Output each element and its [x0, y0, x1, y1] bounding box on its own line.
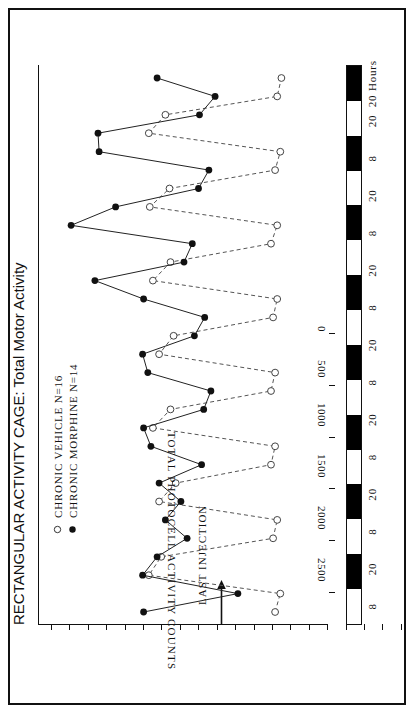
data-point: [274, 516, 281, 523]
time-tick: [364, 624, 365, 630]
hour-tick-label: 20: [366, 562, 378, 575]
rotated-figure-stage: RECTANGULAR ACTIVITY CAGE: Total Motor A…: [16, 27, 398, 687]
data-point: [277, 148, 284, 155]
data-point: [274, 295, 281, 302]
hours-axis-labels: 82082082082082082082020 Hours: [366, 65, 384, 625]
data-point: [184, 534, 191, 541]
value-tick: [329, 333, 335, 334]
data-point: [170, 332, 177, 339]
hour-tick-label: 8: [366, 155, 378, 161]
data-point: [154, 74, 161, 81]
hour-tick-label: 20: [366, 413, 378, 426]
hour-tick-label: 20: [366, 114, 378, 127]
data-point: [268, 387, 275, 394]
chart-title: RECTANGULAR ACTIVITY CAGE: Total Motor A…: [10, 65, 27, 625]
data-point: [156, 498, 163, 505]
data-point: [139, 350, 146, 357]
data-point: [268, 461, 275, 468]
value-tick-label: 0: [316, 326, 328, 332]
data-point: [274, 93, 281, 100]
data-point: [150, 277, 157, 284]
dark-phase-band: [347, 345, 361, 380]
hour-tick-label: 20: [366, 338, 378, 351]
dark-phase-band: [347, 66, 361, 101]
data-point: [274, 221, 281, 228]
data-point: [189, 240, 196, 247]
data-point: [278, 74, 285, 81]
data-point: [156, 350, 163, 357]
data-point: [178, 498, 185, 505]
hour-tick-label: 8: [366, 229, 378, 235]
hour-tick-label: 20: [366, 488, 378, 501]
hour-tick-label: 8: [366, 603, 378, 609]
light-phase-band: [347, 240, 361, 275]
light-dark-cycle-bar: [346, 65, 362, 625]
value-tick-label: 2000: [316, 506, 328, 530]
data-point: [95, 129, 102, 136]
data-point: [198, 461, 205, 468]
data-point: [156, 479, 163, 486]
data-point: [270, 314, 277, 321]
data-point: [272, 369, 279, 376]
data-point: [201, 314, 208, 321]
data-point: [268, 240, 275, 247]
data-point: [144, 369, 151, 376]
data-point: [181, 258, 188, 265]
data-point: [92, 277, 99, 284]
time-tick: [401, 624, 402, 630]
value-tick-label: 1500: [316, 454, 328, 478]
data-point: [277, 590, 284, 597]
value-tick-label: 2500: [316, 557, 328, 581]
value-tick: [329, 384, 335, 385]
data-point: [195, 185, 202, 192]
data-point: [208, 387, 215, 394]
data-point: [148, 442, 155, 449]
plot-area: [38, 65, 328, 625]
data-point: [140, 424, 147, 431]
hour-tick-label: 20: [366, 264, 378, 277]
light-phase-band: [347, 100, 361, 135]
light-phase-band: [347, 589, 361, 624]
data-point: [235, 590, 242, 597]
value-tick: [329, 540, 335, 541]
data-point: [140, 608, 147, 615]
value-tick: [329, 436, 335, 437]
data-point: [272, 166, 279, 173]
series-morphine: [68, 74, 242, 615]
value-axis-title: TOTAL PHOTOCELL ACTIVITY COUNTS: [166, 401, 178, 701]
data-point: [212, 93, 219, 100]
hour-tick-label: 20: [366, 189, 378, 202]
dark-phase-band: [347, 414, 361, 449]
data-point: [272, 608, 279, 615]
data-point: [145, 129, 152, 136]
light-phase-band: [347, 310, 361, 345]
dark-phase-band: [347, 554, 361, 589]
value-tick-label: 1000: [316, 402, 328, 426]
dark-phase-band: [347, 484, 361, 519]
data-point: [146, 203, 153, 210]
hour-tick-label: 20 Hours: [366, 60, 378, 107]
data-point: [166, 185, 173, 192]
figure-page: RECTANGULAR ACTIVITY CAGE: Total Motor A…: [0, 0, 416, 715]
data-point: [206, 166, 213, 173]
data-point: [270, 534, 277, 541]
light-phase-band: [347, 519, 361, 554]
data-point: [200, 406, 207, 413]
data-point: [272, 442, 279, 449]
dark-phase-band: [347, 275, 361, 310]
light-phase-band: [347, 170, 361, 205]
data-point: [68, 221, 75, 228]
data-point: [96, 148, 103, 155]
figure-outer-frame: RECTANGULAR ACTIVITY CAGE: Total Motor A…: [8, 8, 406, 705]
hour-tick-label: 8: [366, 379, 378, 385]
dark-phase-band: [347, 205, 361, 240]
value-tick-label: 500: [316, 359, 328, 377]
data-point: [140, 295, 147, 302]
dark-phase-band: [347, 135, 361, 170]
hour-tick-label: 8: [366, 304, 378, 310]
data-point: [112, 203, 119, 210]
plot-svg: [39, 64, 329, 624]
data-point: [162, 111, 169, 118]
value-tick: [329, 488, 335, 489]
data-point: [191, 332, 198, 339]
